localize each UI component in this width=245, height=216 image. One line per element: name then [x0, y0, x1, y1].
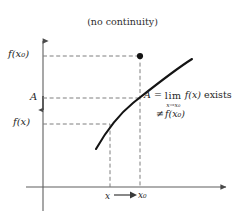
y-label-fx0: f(x₀): [8, 49, 29, 59]
limit-lim-text: lim: [165, 91, 182, 101]
annotation-not-equal: ≠: [156, 108, 164, 119]
x-axis-arrow-icon: [114, 190, 138, 200]
annotation-fx: f(x): [185, 90, 201, 100]
limit-annotation-line1: A = lim x→x₀ f(x) exists: [144, 90, 232, 101]
x-label-x: x: [105, 192, 110, 201]
limit-operator: lim x→x₀: [165, 91, 182, 108]
y-label-A: A: [30, 92, 37, 102]
point-fx0-marker: [137, 53, 143, 59]
annotation-A: A: [144, 90, 151, 100]
limit-annotation: A = lim x→x₀ f(x) exists ≠f(x₀): [144, 90, 232, 119]
figure-title: (no continuity): [0, 17, 245, 27]
x-label-x0: x₀: [138, 191, 147, 200]
limit-subscript: x→x₀: [166, 102, 180, 108]
limit-annotation-line2: ≠f(x₀): [156, 109, 232, 119]
annotation-fx0: f(x₀): [165, 108, 185, 119]
y-label-fx: f(x): [13, 117, 30, 127]
annotation-equals: =: [154, 90, 162, 100]
annotation-exists: exists: [204, 90, 232, 100]
continuity-figure: (no continuity) f(x₀) A f(x) x x₀ A = li…: [0, 0, 245, 216]
